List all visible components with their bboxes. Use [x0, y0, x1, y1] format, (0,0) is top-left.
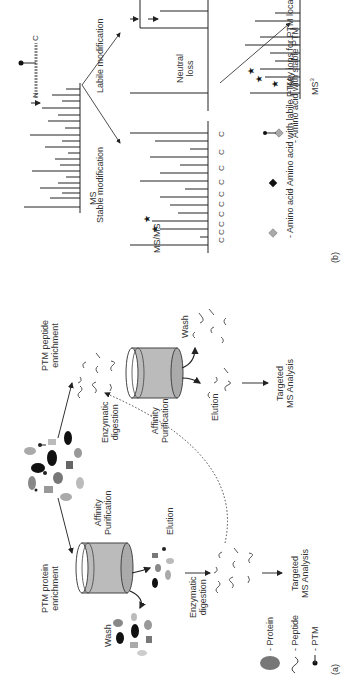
msms-label: MS/MS: [152, 223, 162, 253]
protein-affinity-column: [76, 543, 133, 593]
peptide-wash-label: Wash: [180, 315, 190, 338]
legend-ptm-label: - PTM: [310, 627, 320, 652]
legend-key-ions-label: - Key ions for PTM localization: [285, 0, 295, 93]
svg-text:C: C: [217, 201, 226, 207]
panel-a-tag: (a): [330, 664, 340, 675]
figure-canvas: ★ ★ CCC CCC CCC C: [0, 0, 348, 683]
ms3-label: MS3: [307, 78, 320, 95]
svg-text:C: C: [217, 237, 226, 243]
protein-wash-scatter: [113, 613, 152, 656]
ms-c-terminus: C: [31, 35, 41, 41]
svg-text:C: C: [217, 179, 226, 185]
neutral-loss-label: Neutral loss: [175, 54, 195, 83]
ms-n-terminus: N: [31, 92, 41, 98]
peptide-digestion-label: Enzymatic digestion: [100, 401, 120, 443]
neutral-loss-spectrum: [130, 0, 208, 111]
protein-wash-label: Wash: [103, 624, 113, 647]
svg-text:C: C: [217, 191, 226, 197]
peptide-icon: [292, 657, 298, 673]
peptide-enrichment-title: PTM peptide enrichment: [40, 320, 60, 371]
key-ion-star: ★: [246, 67, 256, 75]
peptide-affinity-label: Affinity Purification: [150, 398, 170, 443]
msms-fragment-labels: CCC CCC CCC C: [217, 131, 226, 243]
panel-b-tag: (b): [330, 252, 340, 263]
peptide-ms-analysis-label: Targeted MS Analysis: [275, 359, 295, 408]
protein-affinity-label: Affinity Purification: [93, 490, 113, 535]
labile-ptm-amino-acid-icon: [269, 179, 277, 187]
peptide-wash-scatter: [193, 309, 226, 343]
key-ion-star: ★: [142, 215, 152, 223]
legend-protein-label: - Protein: [265, 617, 275, 651]
labile-modification-label: Labile modification: [95, 18, 105, 93]
amino-acid-icon: [269, 229, 277, 237]
protein-enrichment-title: PTM protein enrichment: [40, 564, 60, 613]
svg-text:C: C: [217, 211, 226, 217]
protein-elution-scatter: [152, 547, 174, 588]
svg-text:C: C: [217, 221, 226, 227]
peptide-elution-label: Elution: [210, 393, 220, 421]
protein-ms-analysis-label: Targeted MS Analysis: [290, 549, 310, 598]
protein-digestion-label: Enzymatic digestion: [188, 576, 208, 618]
stable-modification-label: Stable modification: [95, 147, 105, 223]
protein-route-peptides: [214, 548, 253, 593]
protein-elution-label: Elution: [165, 507, 175, 535]
key-ion-star: ★: [254, 75, 264, 83]
svg-text:C: C: [217, 229, 226, 235]
peptide-digest-scatter: [78, 353, 115, 398]
msms-spectrum: [130, 121, 208, 253]
svg-text:C: C: [217, 149, 226, 155]
peptide-affinity-column: [126, 348, 183, 398]
legend-peptide-label: - Peptide: [290, 615, 300, 651]
svg-text:C: C: [217, 165, 226, 171]
svg-text:C: C: [217, 131, 226, 137]
stable-ptm-amino-acid-icon: [263, 129, 283, 137]
key-ion-star-icon: ★: [270, 80, 280, 88]
ptm-icon: [313, 655, 318, 666]
legend-amino-acid-label: - Amino acid: [285, 188, 295, 238]
ms-peptide-chain: [19, 43, 37, 98]
protein-mixture: [24, 431, 84, 501]
protein-icon: [260, 656, 280, 670]
